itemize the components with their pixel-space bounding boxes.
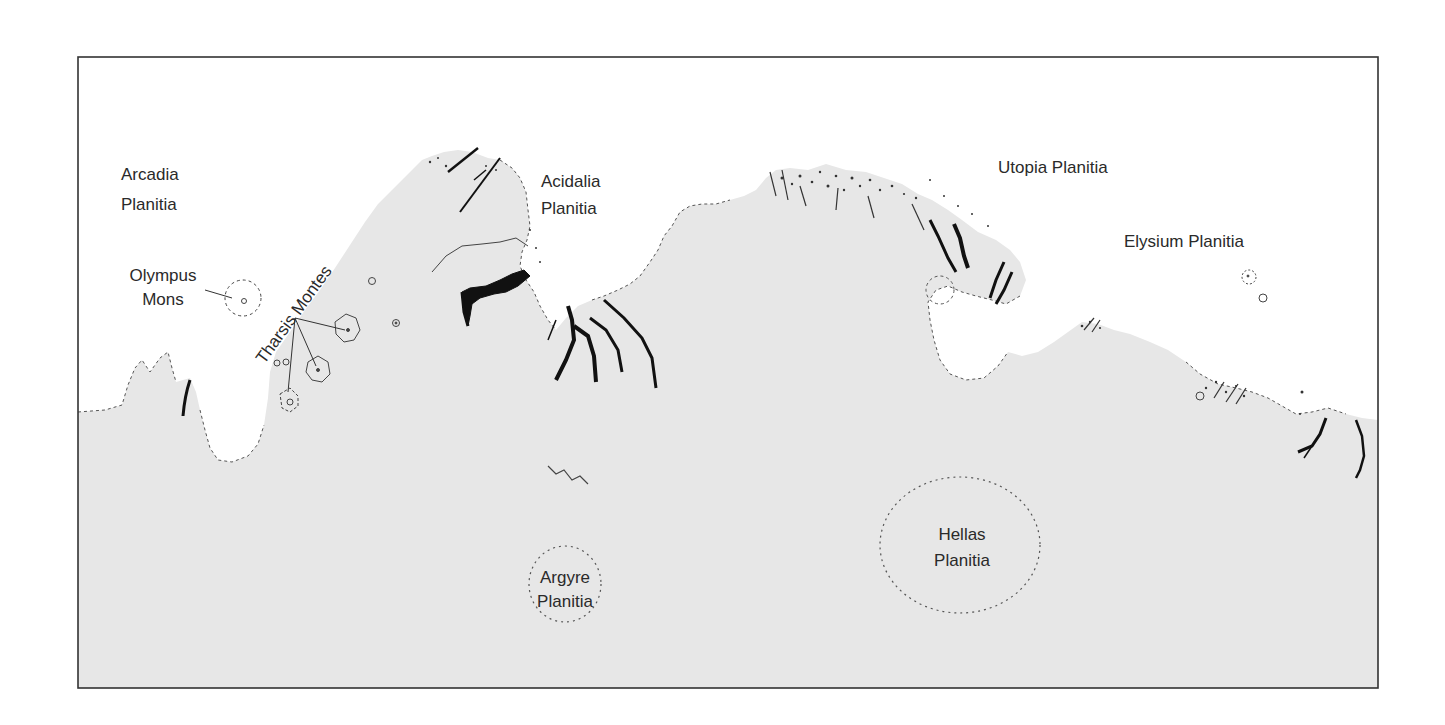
- label-line: Planitia: [520, 590, 610, 614]
- label-line: Acidalia: [541, 168, 601, 195]
- label-line: Olympus: [118, 264, 208, 288]
- label-line: Planitia: [541, 195, 601, 222]
- label-acidalia-planitia: Acidalia Planitia: [541, 168, 601, 222]
- olympus-leader-line: [205, 290, 232, 298]
- label-line: Planitia: [917, 548, 1007, 574]
- label-argyre-planitia: Argyre Planitia: [520, 566, 610, 614]
- label-line: Argyre: [520, 566, 610, 590]
- label-line: Hellas: [917, 522, 1007, 548]
- label-line: Elysium Planitia: [1124, 227, 1244, 257]
- label-elysium-planitia: Elysium Planitia: [1124, 227, 1244, 257]
- label-line: Utopia Planitia: [998, 153, 1108, 183]
- label-arcadia-planitia: Arcadia Planitia: [121, 160, 179, 220]
- label-line: Mons: [118, 288, 208, 312]
- label-line: Planitia: [121, 190, 179, 220]
- label-utopia-planitia: Utopia Planitia: [998, 153, 1108, 183]
- label-hellas-planitia: Hellas Planitia: [917, 522, 1007, 574]
- label-line: Arcadia: [121, 160, 179, 190]
- mars-map: Arcadia Planitia Olympus Mons Tharsis Mo…: [0, 0, 1445, 725]
- mars-map-graphic: [0, 0, 1445, 725]
- label-olympus-mons: Olympus Mons: [118, 264, 208, 312]
